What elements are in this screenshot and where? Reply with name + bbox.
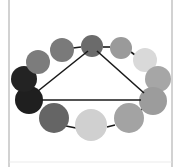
ring-link-3 xyxy=(66,126,76,128)
circle-node-bottom-center xyxy=(75,109,107,141)
circle-node-upper-right-1 xyxy=(110,37,132,59)
circle-node-bottom-right xyxy=(114,103,144,133)
circle-node-right-lower xyxy=(139,87,167,115)
ring-circles xyxy=(11,35,171,141)
ring-link-0 xyxy=(73,47,81,48)
circle-node-bottom-left xyxy=(39,103,69,133)
ring-link-4 xyxy=(107,125,115,127)
circle-node-upper-left-1 xyxy=(50,38,74,62)
circle-ring-diagram xyxy=(0,0,176,167)
diagram-canvas xyxy=(0,0,176,167)
circle-node-upper-left-2 xyxy=(26,50,50,74)
